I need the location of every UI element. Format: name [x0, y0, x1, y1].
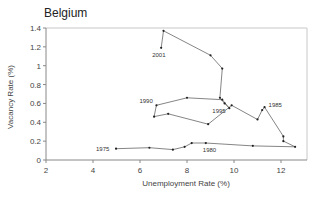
data-point — [228, 107, 230, 109]
y-tick-label: 1 — [37, 62, 42, 71]
data-point — [252, 145, 254, 147]
x-tick-label: 4 — [91, 166, 96, 175]
series-path — [116, 31, 295, 150]
data-point — [184, 146, 186, 148]
y-tick-label: 0.6 — [30, 99, 42, 108]
data-point — [224, 102, 226, 104]
x-tick-label: 6 — [138, 166, 143, 175]
data-point — [261, 109, 263, 111]
data-point — [148, 147, 150, 149]
y-tick-label: 0 — [37, 156, 42, 165]
y-axis-label: Vacancy Rate (%) — [6, 65, 15, 129]
data-point — [160, 47, 162, 49]
data-point — [256, 118, 258, 120]
data-point — [221, 67, 223, 69]
data-point — [162, 30, 164, 32]
y-tick-label: 0.4 — [30, 118, 42, 127]
beveridge-chart: Belgium 2468101200.20.40.60.811.21.4 197… — [0, 0, 322, 200]
data-point — [191, 142, 193, 144]
data-point — [172, 149, 174, 151]
data-point — [294, 146, 296, 148]
year-annotation: 1975 — [96, 146, 110, 152]
year-annotation: 1995 — [212, 108, 226, 114]
axes: 2468101200.20.40.60.811.21.4 — [30, 24, 307, 175]
year-annotation: 1980 — [203, 147, 217, 153]
y-tick-label: 0.8 — [30, 81, 42, 90]
data-point — [282, 140, 284, 142]
y-tick-label: 0.2 — [30, 137, 42, 146]
data-point — [231, 104, 233, 106]
y-tick-label: 1.4 — [30, 24, 42, 33]
data-point — [263, 106, 265, 108]
data-point — [221, 99, 223, 101]
data-point — [205, 142, 207, 144]
data-point — [207, 123, 209, 125]
data-point — [209, 54, 211, 56]
year-annotation: 1985 — [269, 102, 283, 108]
series-line — [115, 30, 296, 151]
data-point — [186, 97, 188, 99]
data-point — [155, 104, 157, 106]
y-tick-label: 1.2 — [30, 43, 42, 52]
x-tick-label: 2 — [44, 166, 49, 175]
chart-title: Belgium — [44, 6, 87, 20]
data-point — [153, 116, 155, 118]
x-axis-label: Unemployment Rate (%) — [142, 179, 230, 188]
year-annotation: 2001 — [152, 52, 166, 58]
data-point — [167, 113, 169, 115]
data-point — [282, 135, 284, 137]
data-point — [115, 148, 117, 150]
x-tick-label: 10 — [230, 166, 239, 175]
x-tick-label: 12 — [277, 166, 286, 175]
x-tick-label: 8 — [185, 166, 190, 175]
annotations: 197519801985199019952001 — [96, 52, 283, 153]
chart-container: Belgium 2468101200.20.40.60.811.21.4 197… — [0, 0, 322, 200]
data-point — [219, 97, 221, 99]
year-annotation: 1990 — [139, 98, 153, 104]
